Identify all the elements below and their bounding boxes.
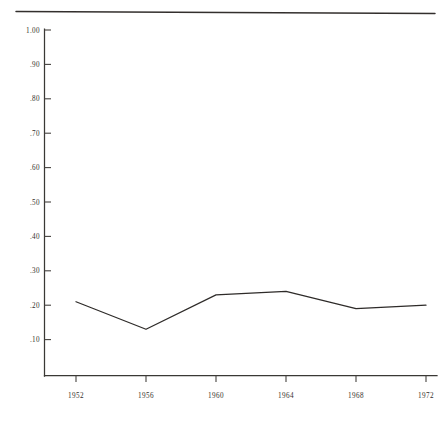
x-tick-label-1960: 1960 [208,392,224,400]
x-axis-ticks [76,376,426,383]
y-tick-label-0-20: .20 [30,302,40,310]
chart-figure: 1.00 .90 .80 .70 .60 .50 .40 .30 .20 .10… [0,0,446,421]
x-tick-label-1968: 1968 [348,392,364,400]
y-tick-label-0-30: .30 [30,267,40,275]
x-tick-label-1956: 1956 [138,392,154,400]
x-tick-label-1952: 1952 [68,392,84,400]
line-chart-canvas: 1.00 .90 .80 .70 .60 .50 .40 .30 .20 .10… [0,0,446,421]
x-tick-label-1964: 1964 [278,392,294,400]
x-tick-label-1972: 1972 [418,392,434,400]
top-rule-divider [16,12,435,14]
y-tick-label-0-60: .60 [30,164,40,172]
y-tick-label-0-90: .90 [30,61,40,69]
y-axis-ticks [45,30,52,340]
data-series-line [76,291,426,329]
y-tick-label-0-70: .70 [30,130,40,138]
y-tick-label-0-80: .80 [30,95,40,103]
y-tick-label-0-40: .40 [30,233,40,241]
y-tick-label-0-50: .50 [30,199,40,207]
y-tick-label-1-00: 1.00 [26,27,40,35]
y-tick-label-0-10: .10 [30,336,40,344]
